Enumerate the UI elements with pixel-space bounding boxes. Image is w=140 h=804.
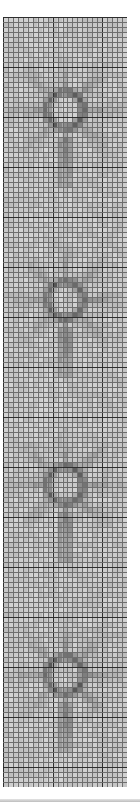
bottom-divider xyxy=(0,799,140,802)
pattern-grid xyxy=(3,17,127,787)
